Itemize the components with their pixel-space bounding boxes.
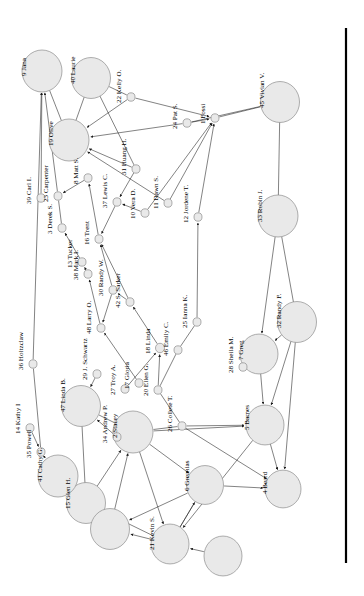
node-label: 37 Lewis C. bbox=[101, 173, 109, 208]
graph-edge bbox=[91, 378, 95, 387]
graph-edge bbox=[130, 493, 188, 520]
graph-node[interactable] bbox=[174, 346, 182, 354]
graph-node[interactable] bbox=[265, 470, 301, 508]
node-label: 21 Kevin S. bbox=[148, 516, 156, 550]
graph-node[interactable] bbox=[113, 198, 121, 206]
graph-edge bbox=[33, 369, 40, 448]
graph-edge bbox=[187, 425, 244, 426]
node-label: 20 Ellen G. bbox=[142, 363, 150, 396]
node-label: 40 Laurie bbox=[69, 57, 77, 84]
graph-edge bbox=[180, 501, 195, 527]
node-label: 39 Carl I. bbox=[25, 177, 33, 204]
graph-node[interactable] bbox=[97, 324, 105, 332]
graph-edge bbox=[139, 452, 163, 524]
graph-edge bbox=[224, 486, 263, 488]
graph-node[interactable] bbox=[38, 455, 78, 497]
graph-edge bbox=[102, 206, 115, 233]
graph-node[interactable] bbox=[91, 509, 130, 550]
graph-node[interactable] bbox=[178, 422, 186, 430]
node-label: 46 Emily C. bbox=[162, 321, 170, 356]
graph-node[interactable] bbox=[84, 174, 92, 182]
node-label: 2 Stacey bbox=[111, 413, 119, 438]
node-label: 16 Trent bbox=[83, 221, 91, 245]
graph-node[interactable] bbox=[132, 165, 140, 173]
graph-node[interactable] bbox=[95, 235, 103, 243]
node-label: 5 Barnes bbox=[243, 405, 251, 430]
graph-edge bbox=[50, 90, 62, 121]
node-label: 36 Holtzclaw bbox=[17, 331, 25, 370]
node-label: 23 Carpenter bbox=[42, 165, 50, 202]
graph-edge bbox=[197, 223, 198, 317]
node-label: 26 Collete T. bbox=[166, 395, 174, 432]
graph-edge bbox=[97, 450, 121, 486]
graph-edge bbox=[85, 267, 86, 270]
graph-node[interactable] bbox=[246, 405, 284, 445]
node-label: 29 J. Schwartz bbox=[81, 338, 89, 380]
graph-edge bbox=[82, 426, 85, 483]
graph-node[interactable] bbox=[141, 209, 149, 217]
node-label: 27 Troy A. bbox=[109, 364, 117, 395]
graph-node[interactable] bbox=[187, 466, 224, 505]
node-label: 41 Cathy G. bbox=[36, 447, 44, 482]
node-label: 48 Larry O. bbox=[85, 300, 93, 334]
graph-node[interactable] bbox=[151, 524, 189, 564]
graph-node[interactable] bbox=[113, 411, 153, 453]
graph-edge bbox=[33, 93, 41, 359]
graph-node[interactable] bbox=[211, 114, 219, 122]
node-label: 14 Kathy I bbox=[14, 403, 22, 434]
graph-edge bbox=[219, 107, 260, 117]
graph-node[interactable] bbox=[22, 50, 62, 92]
graph-edge bbox=[160, 354, 176, 386]
graph-node[interactable] bbox=[72, 58, 111, 99]
graph-edge bbox=[285, 342, 296, 469]
graph-canvas: 1 Fossi2 Stacey3 Derek S.4 Beard5 Barnes… bbox=[0, 0, 364, 596]
node-label: 32 Randy F. bbox=[275, 293, 283, 328]
node-label: 17 Gloria bbox=[123, 361, 131, 389]
graph-edge bbox=[282, 236, 294, 302]
graph-node[interactable] bbox=[54, 192, 62, 200]
node-label: 7 Greg bbox=[237, 340, 245, 360]
graph-node[interactable] bbox=[29, 360, 37, 368]
node-label: 6 Greanias bbox=[183, 460, 191, 491]
node-label: 34 Andrew P. bbox=[101, 405, 109, 443]
node-label: 35 Powell bbox=[25, 429, 33, 458]
graph-node[interactable] bbox=[258, 195, 298, 237]
node-label: 3 Derek S. bbox=[46, 204, 54, 234]
graph-node[interactable] bbox=[62, 386, 101, 427]
graph-node[interactable] bbox=[93, 370, 101, 378]
node-label: 19 Olive bbox=[47, 121, 55, 146]
node-label: 25 Ianna K. bbox=[181, 294, 189, 328]
node-label: 4 Beard bbox=[261, 471, 269, 494]
graph-node[interactable] bbox=[164, 199, 172, 207]
node-label: 8 Matt S. bbox=[72, 158, 80, 184]
graph-node[interactable] bbox=[204, 536, 242, 576]
graph-edge bbox=[59, 201, 62, 224]
graph-node[interactable] bbox=[84, 270, 92, 278]
graph-node[interactable] bbox=[49, 119, 89, 161]
graph-edge bbox=[115, 453, 128, 509]
graph-node[interactable] bbox=[239, 363, 247, 371]
graph-node[interactable] bbox=[183, 119, 191, 127]
node-label: 30 Randy W. bbox=[97, 259, 105, 296]
graph-edge bbox=[100, 96, 134, 165]
graph-node[interactable] bbox=[58, 224, 66, 232]
node-label: 28 Sheila M. bbox=[227, 336, 235, 373]
node-label: 42 S. Sarker bbox=[114, 272, 122, 308]
graph-node[interactable] bbox=[278, 302, 317, 343]
graph-node[interactable] bbox=[154, 386, 162, 394]
graph-node[interactable] bbox=[193, 318, 201, 326]
node-label: 1 Fossi bbox=[199, 104, 207, 124]
graph-edge bbox=[158, 354, 159, 385]
graph-edge bbox=[270, 444, 277, 470]
graph-edge bbox=[91, 124, 183, 137]
graph-node[interactable] bbox=[127, 93, 135, 101]
graph-node[interactable] bbox=[261, 82, 300, 123]
graph-node[interactable] bbox=[194, 213, 202, 221]
node-label: 24 Pat S. bbox=[171, 103, 179, 129]
node-label: 9 Jana bbox=[20, 57, 28, 76]
graph-edge bbox=[262, 236, 275, 333]
network-graph-figure: 1 Fossi2 Stacey3 Derek S.4 Beard5 Barnes… bbox=[0, 0, 364, 596]
graph-node[interactable] bbox=[126, 298, 134, 306]
graph-edge bbox=[103, 294, 112, 322]
node-label: 11 Dawn S. bbox=[152, 176, 160, 209]
